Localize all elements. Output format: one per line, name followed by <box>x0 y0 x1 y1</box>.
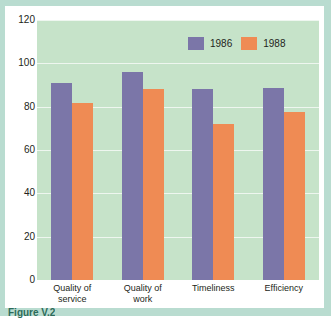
x-axis-label-timeliness: Timeliness <box>178 283 248 305</box>
legend-item-1988[interactable]: 1988 <box>241 37 285 50</box>
legend-swatch-1986 <box>188 37 204 50</box>
bar-1986-timeliness[interactable] <box>192 89 213 280</box>
y-axis-tick-label: 20 <box>7 232 35 242</box>
x-axis-label-quality-of-service: Quality ofservice <box>37 283 107 305</box>
bars-layer <box>37 20 319 280</box>
legend-swatch-1988 <box>241 37 257 50</box>
bar-group <box>249 20 319 280</box>
y-axis-tick-label: 100 <box>7 58 35 68</box>
x-axis-label-quality-of-work: Quality ofwork <box>108 283 178 305</box>
bar-group <box>108 20 178 280</box>
legend-label-1988: 1988 <box>263 39 285 49</box>
chart-card: 120100806040200 Quality ofserviceQuality… <box>5 6 324 308</box>
y-axis-tick-label: 60 <box>7 145 35 155</box>
figure-caption: Figure V.2 <box>8 307 55 318</box>
bar-1988-timeliness[interactable] <box>213 124 234 280</box>
bar-group <box>37 20 107 280</box>
x-axis-label-efficiency: Efficiency <box>249 283 319 305</box>
y-axis-tick-label: 80 <box>7 102 35 112</box>
legend-label-1986: 1986 <box>210 39 232 49</box>
x-axis-labels: Quality ofserviceQuality ofworkTimelines… <box>37 283 319 305</box>
bar-1988-quality-of-service[interactable] <box>72 103 93 280</box>
y-axis-tick-label: 40 <box>7 188 35 198</box>
bar-1986-quality-of-service[interactable] <box>51 83 72 280</box>
y-axis: 120100806040200 <box>5 20 35 280</box>
y-axis-tick-label: 0 <box>7 275 35 285</box>
y-axis-tick-label: 120 <box>7 15 35 25</box>
bar-1988-efficiency[interactable] <box>284 112 305 280</box>
bar-group <box>178 20 248 280</box>
bar-1986-efficiency[interactable] <box>263 88 284 280</box>
chart-legend: 19861988 <box>188 37 286 50</box>
bar-1988-quality-of-work[interactable] <box>143 89 164 280</box>
legend-item-1986[interactable]: 1986 <box>188 37 232 50</box>
bar-1986-quality-of-work[interactable] <box>122 72 143 280</box>
